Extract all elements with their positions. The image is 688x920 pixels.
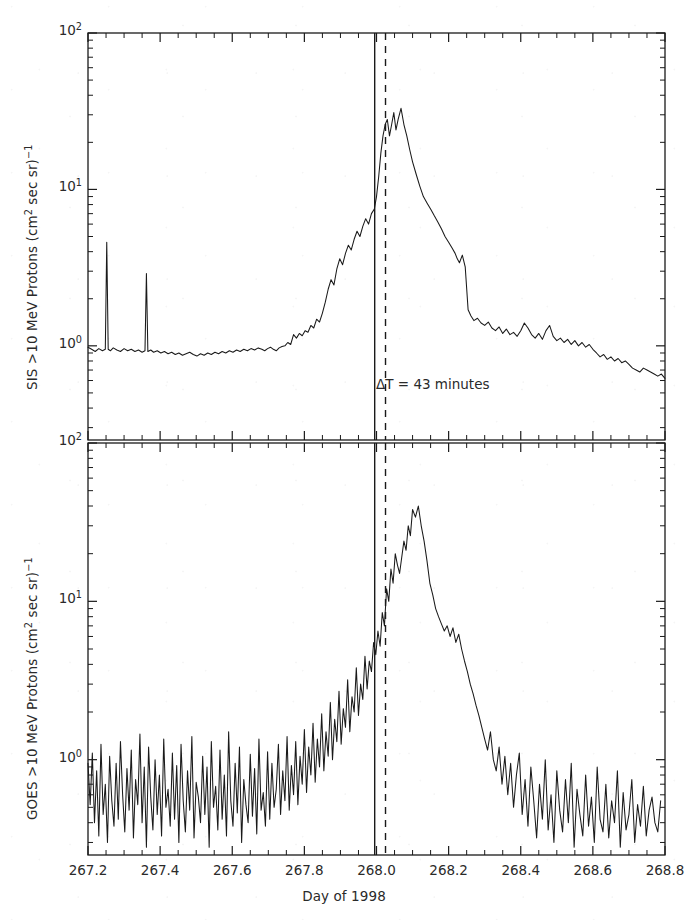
proton-flux-figure: SIS >10 MeV Protons (cm2 sec sr)−1 ΔT = …: [0, 0, 688, 920]
x-tick-label: 268.2: [414, 862, 484, 878]
sis-panel-ytick-label: 100: [30, 335, 82, 351]
ytick-exponent: 1: [76, 589, 82, 600]
ytick-exponent: 0: [76, 333, 82, 344]
data-trace-sis: [88, 108, 665, 378]
panel-frame-sis-panel: [88, 33, 665, 440]
ytick-mantissa: 10: [59, 335, 76, 351]
x-tick-label: 268.0: [342, 862, 412, 878]
ytick-exponent: 2: [76, 431, 82, 442]
x-tick-label: 267.8: [269, 862, 339, 878]
plot-canvas: [0, 0, 688, 920]
ytick-exponent: 1: [76, 177, 82, 188]
x-tick-label: 267.2: [53, 862, 123, 878]
ytick-mantissa: 10: [59, 178, 76, 194]
ytick-exponent: 2: [76, 21, 82, 32]
x-tick-label: 268.4: [486, 862, 556, 878]
sis-panel-ytick-label: 102: [30, 22, 82, 38]
goes-panel-ytick-label: 102: [30, 432, 82, 448]
x-tick-label: 268.8: [630, 862, 688, 878]
goes-panel-ytick-label: 100: [30, 749, 82, 765]
ytick-mantissa: 10: [59, 590, 76, 606]
sis-panel-ytick-label: 101: [30, 178, 82, 194]
ytick-exponent: 0: [76, 747, 82, 758]
x-tick-label: 267.4: [125, 862, 195, 878]
goes-panel-ytick-label: 101: [30, 590, 82, 606]
ytick-mantissa: 10: [59, 22, 76, 38]
x-tick-label: 268.6: [558, 862, 628, 878]
ytick-mantissa: 10: [59, 749, 76, 765]
ytick-mantissa: 10: [59, 432, 76, 448]
x-tick-label: 267.6: [197, 862, 267, 878]
